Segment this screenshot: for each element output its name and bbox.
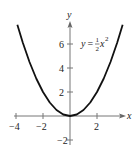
x-tick-label-m4: −4 [9,121,20,132]
eq-denominator: 2 [96,45,100,53]
x-tick-label-m2: −2 [36,121,47,132]
y-tick-label-2: 2 [59,87,64,98]
x-axis-label: x [126,110,132,121]
y-tick-label-m2: −2 [57,135,68,146]
y-axis-label: y [66,9,72,20]
eq-equals: = [88,38,94,49]
x-tick-label-2: 2 [94,121,99,132]
eq-numerator: 1 [96,36,100,44]
eq-exponent: 2 [105,35,109,43]
equation-label: y = 1 2 x 2 [80,35,109,53]
parabola-chart: −4 −2 2 6 4 2 −2 x y y = 1 2 x 2 [0,0,140,153]
eq-y: y [80,38,86,49]
y-tick-label-4: 4 [59,63,64,74]
y-tick-label-6: 6 [59,39,64,50]
